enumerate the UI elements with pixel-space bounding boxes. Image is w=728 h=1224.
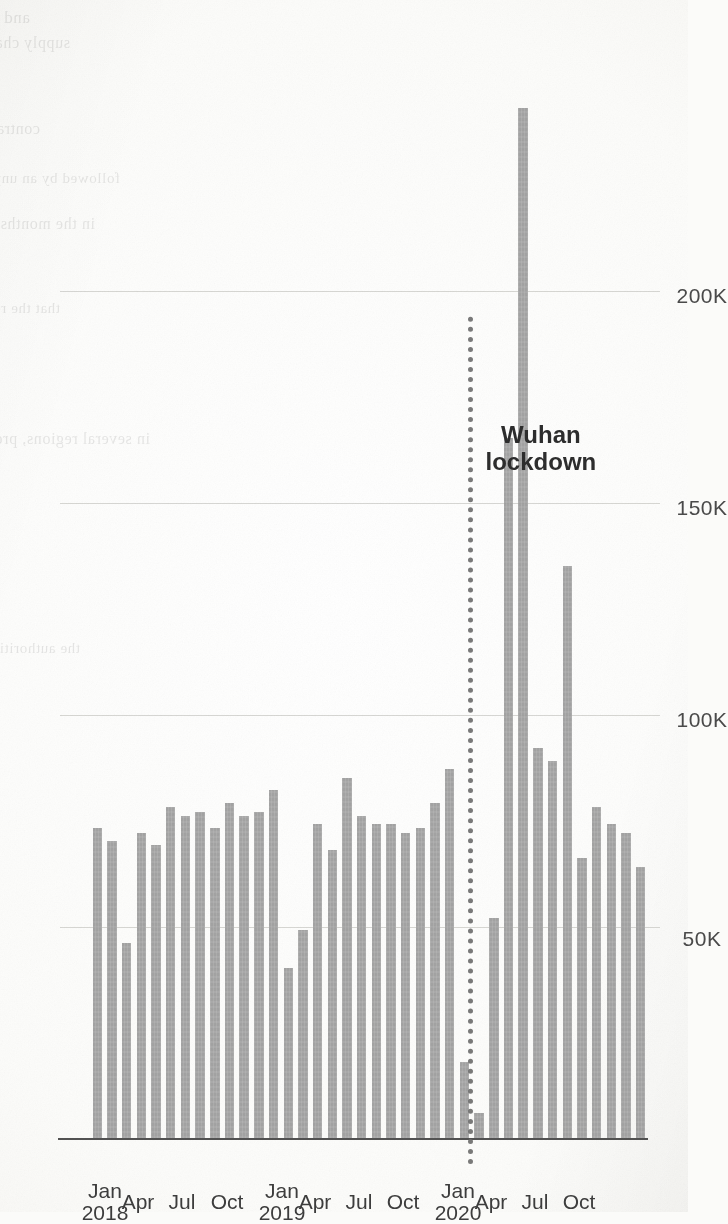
- bar[interactable]: [489, 918, 498, 1138]
- bar[interactable]: [592, 807, 601, 1138]
- bar[interactable]: [577, 858, 586, 1138]
- bar[interactable]: [239, 816, 248, 1138]
- bar[interactable]: [181, 816, 190, 1138]
- bar[interactable]: [401, 833, 410, 1138]
- annotation-line-wuhan-lockdown: [468, 316, 473, 1164]
- bar[interactable]: [563, 566, 572, 1138]
- bar[interactable]: [533, 748, 542, 1138]
- category-tick-Oct: Oct: [529, 1191, 629, 1213]
- bar[interactable]: [107, 841, 116, 1138]
- value-tick-100K: 100K: [676, 708, 727, 732]
- bar[interactable]: [621, 833, 630, 1138]
- bar[interactable]: [342, 778, 351, 1138]
- bar[interactable]: [372, 824, 381, 1138]
- bar[interactable]: [474, 1113, 483, 1138]
- bar[interactable]: [122, 943, 131, 1138]
- bar[interactable]: [386, 824, 395, 1138]
- bar[interactable]: [357, 816, 366, 1138]
- gridline-150K: [60, 503, 660, 504]
- bar[interactable]: [210, 828, 219, 1138]
- bar[interactable]: [269, 790, 278, 1138]
- bar[interactable]: [518, 108, 527, 1138]
- bar[interactable]: [93, 828, 102, 1138]
- bar[interactable]: [166, 807, 175, 1138]
- bar[interactable]: [313, 824, 322, 1138]
- value-tick-150K: 150K: [676, 496, 727, 520]
- annotation-label-wuhan-lockdown: Wuhanlockdown: [486, 422, 597, 476]
- plot-area: 50K100K150K200KJan2018AprJulOctJan2019Ap…: [90, 80, 648, 1140]
- bar[interactable]: [328, 850, 337, 1138]
- category-axis-line: [58, 1138, 648, 1140]
- value-tick-50K: 50K: [683, 927, 722, 951]
- value-tick-200K: 200K: [676, 284, 727, 308]
- gridline-200K: [60, 291, 660, 292]
- bar[interactable]: [225, 803, 234, 1138]
- bar[interactable]: [195, 812, 204, 1138]
- bar[interactable]: [298, 930, 307, 1138]
- annotation-line-text: Wuhan: [486, 422, 597, 449]
- bar[interactable]: [254, 812, 263, 1138]
- bar[interactable]: [151, 845, 160, 1138]
- bar[interactable]: [430, 803, 439, 1138]
- bar[interactable]: [445, 769, 454, 1138]
- bar[interactable]: [548, 761, 557, 1138]
- bar[interactable]: [504, 438, 513, 1138]
- category-tick-month: Oct: [563, 1190, 596, 1213]
- bar[interactable]: [416, 828, 425, 1138]
- bar[interactable]: [137, 833, 146, 1138]
- bar[interactable]: [607, 824, 616, 1138]
- annotation-line-text: lockdown: [486, 449, 597, 476]
- bar[interactable]: [284, 968, 293, 1138]
- bar[interactable]: [636, 867, 645, 1138]
